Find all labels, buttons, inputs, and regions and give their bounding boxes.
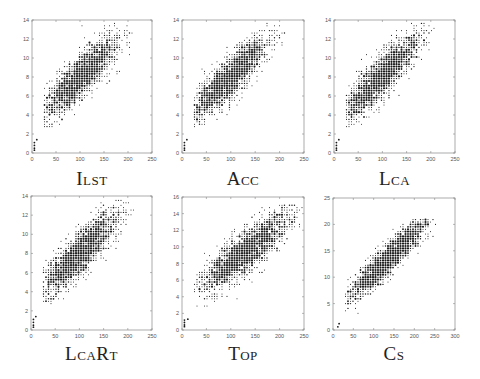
y-tick-label: 20 bbox=[324, 221, 330, 227]
panel-caption: Cs bbox=[333, 343, 455, 365]
plot-frame bbox=[333, 198, 455, 330]
x-tick-label: 200 bbox=[410, 333, 419, 339]
x-tick-label: 100 bbox=[369, 333, 378, 339]
y-tick-label: 5 bbox=[327, 301, 330, 307]
x-tick-label: 300 bbox=[450, 333, 459, 339]
x-tick-label: 150 bbox=[389, 333, 398, 339]
x-tick-label: 50 bbox=[350, 333, 356, 339]
y-tick-label: 25 bbox=[324, 195, 330, 201]
scatter-points bbox=[337, 219, 436, 328]
x-tick-label: 250 bbox=[430, 333, 439, 339]
scatter-plot: 0501001502002503000510152025 bbox=[0, 0, 480, 379]
y-tick-label: 15 bbox=[324, 248, 330, 254]
y-tick-label: 0 bbox=[327, 327, 330, 333]
y-tick-label: 10 bbox=[324, 274, 330, 280]
x-tick-label: 0 bbox=[331, 333, 334, 339]
